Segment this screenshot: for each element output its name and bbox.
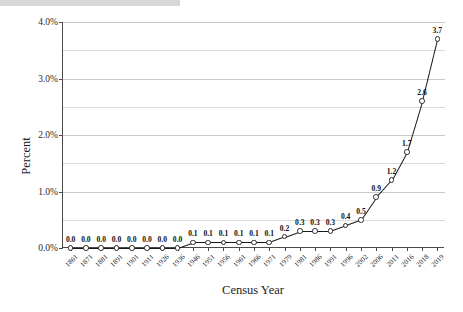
data-point-label: 0.0 (96, 235, 106, 244)
x-axis-tick-mark (193, 247, 194, 251)
x-axis-tick-mark (392, 247, 393, 251)
x-axis-tick-mark (223, 247, 224, 251)
gridline-major (63, 79, 445, 80)
data-point-marker (68, 245, 74, 251)
x-axis-tick-label: 1951 (201, 253, 217, 269)
x-axis-tick-mark (300, 247, 301, 251)
x-axis-tick-label: 2018 (415, 253, 431, 269)
data-point-label: 0.3 (295, 218, 305, 227)
data-point-marker (373, 194, 379, 200)
x-axis-tick-label: 1861 (63, 253, 79, 269)
x-axis-tick-label: 1961 (232, 253, 248, 269)
data-point-marker (419, 98, 425, 104)
x-axis-tick-mark (269, 247, 270, 251)
data-point-label: 0.1 (265, 229, 275, 238)
x-axis-tick-label: 1911 (140, 253, 156, 269)
data-point-label: 0.3 (326, 218, 336, 227)
x-axis-tick-label: 2002 (354, 253, 370, 269)
data-point-marker (297, 228, 303, 234)
data-point-label: 0.1 (188, 229, 198, 238)
data-point-label: 0.0 (81, 235, 91, 244)
x-axis-tick-label: 1966 (247, 253, 263, 269)
data-point-marker (236, 240, 242, 246)
data-point-label: 1.7 (402, 139, 412, 148)
x-axis-tick-label: 1956 (216, 253, 232, 269)
x-axis-tick-mark (437, 247, 438, 251)
data-point-marker (114, 245, 120, 251)
data-point-label: 2.6 (417, 88, 427, 97)
y-axis-tick-mark (59, 192, 63, 193)
data-point-label: 0.1 (249, 229, 259, 238)
data-point-marker (98, 245, 104, 251)
data-point-label: 0.4 (341, 212, 351, 221)
gridline-major (63, 192, 445, 193)
y-axis-tick-mark (59, 22, 63, 23)
data-point-marker (129, 245, 135, 251)
data-point-marker (312, 228, 318, 234)
x-axis-tick-label: 1881 (94, 253, 110, 269)
y-axis-tick-mark (59, 135, 63, 136)
x-axis-tick-label: 1946 (186, 253, 202, 269)
gridline-minor (63, 107, 445, 108)
x-axis-tick-mark (208, 247, 209, 251)
data-point-label: 0.0 (173, 235, 183, 244)
gridline-major (63, 135, 445, 136)
x-axis-tick-label: 2006 (369, 253, 385, 269)
data-point-label: 0.5 (356, 207, 366, 216)
data-point-marker (435, 36, 441, 42)
x-axis-tick-label: 1926 (155, 253, 171, 269)
y-axis-tick-mark (59, 248, 63, 249)
x-axis-tick-mark (407, 247, 408, 251)
x-axis-tick-label: 1971 (262, 253, 278, 269)
x-axis-tick-mark (315, 247, 316, 251)
data-point-marker (251, 240, 257, 246)
data-point-label: 0.2 (280, 224, 290, 233)
x-axis-tick-label: 1936 (170, 253, 186, 269)
line-chart: Percent Census Year 0.0%1.0%2.0%3.0%4.0%… (0, 0, 463, 312)
gridline-minor (63, 50, 445, 51)
data-point-marker (83, 245, 89, 251)
x-axis-tick-mark (285, 247, 286, 251)
x-axis-tick-label: 2011 (385, 253, 401, 269)
data-point-label: 0.0 (112, 235, 122, 244)
data-point-label: 0.0 (142, 235, 152, 244)
data-point-marker (328, 228, 334, 234)
data-point-marker (205, 240, 211, 246)
x-axis-tick-label: 2019 (430, 253, 446, 269)
data-point-marker (404, 149, 410, 155)
gridline-minor (63, 220, 445, 221)
x-axis-tick-label: 1991 (323, 253, 339, 269)
x-axis-tick-mark (346, 247, 347, 251)
x-axis-tick-mark (422, 247, 423, 251)
x-axis-tick-label: 2016 (400, 253, 416, 269)
data-point-marker (175, 245, 181, 251)
y-axis-tick-label: 3.0% (38, 74, 58, 84)
data-point-marker (190, 240, 196, 246)
data-point-marker (282, 234, 288, 240)
x-axis-tick-label: 1901 (125, 253, 141, 269)
data-point-marker (358, 217, 364, 223)
data-point-label: 0.1 (203, 229, 213, 238)
data-point-marker (221, 240, 227, 246)
x-axis-tick-mark (361, 247, 362, 251)
gridline-minor (63, 163, 445, 164)
data-point-label: 1.2 (387, 167, 397, 176)
y-axis-tick-mark (59, 79, 63, 80)
x-axis-tick-mark (254, 247, 255, 251)
data-point-marker (266, 240, 272, 246)
x-axis-tick-label: 1871 (79, 253, 95, 269)
x-axis-tick-mark (330, 247, 331, 251)
data-point-label: 0.1 (219, 229, 229, 238)
x-axis-tick-label: 1979 (277, 253, 293, 269)
data-point-label: 0.9 (371, 184, 381, 193)
data-point-label: 0.3 (310, 218, 320, 227)
x-axis-tick-label: 1891 (109, 253, 125, 269)
data-point-marker (160, 245, 166, 251)
y-axis-tick-label: 1.0% (38, 187, 58, 197)
y-axis-tick-label: 0.0% (38, 243, 58, 253)
x-axis-tick-label: 1981 (293, 253, 309, 269)
y-axis-title: Percent (19, 137, 34, 174)
x-axis-tick-label: 1996 (339, 253, 355, 269)
x-axis-tick-mark (239, 247, 240, 251)
data-point-label: 0.0 (127, 235, 137, 244)
